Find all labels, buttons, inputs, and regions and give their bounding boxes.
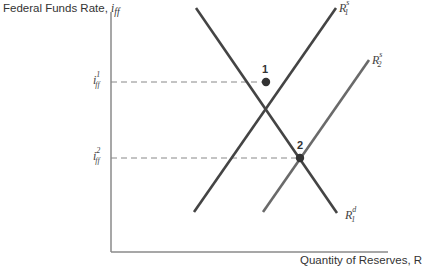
label-r1s: Rs1 [339,0,353,17]
y-axis-label: Federal Funds Rate, iff [3,2,120,17]
point-label-1: 1 [262,63,268,75]
supply-curve-r2s [263,60,369,212]
tick-label-i2: i2ff [93,148,105,165]
x-axis-label: Quantity of Reserves, R [300,254,422,266]
equilibrium-point-2 [296,154,304,162]
label-r1d: Rd1 [345,207,360,224]
tick-label-i1: i1ff [93,72,105,89]
point-label-2: 2 [297,139,303,151]
label-r2s: Rs2 [372,52,386,69]
equilibrium-point-1 [262,78,270,86]
